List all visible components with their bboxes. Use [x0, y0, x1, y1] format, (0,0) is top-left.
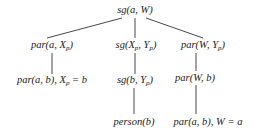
node-text-post: ): [150, 74, 154, 85]
edge-root-n1: [47, 18, 122, 38]
derivation-tree: [0, 0, 254, 135]
node-text-pre: par(a, b), X: [17, 74, 66, 85]
node-text-post: = b: [69, 74, 87, 85]
tree-node-n1a: par(a, b), Xp = b: [17, 75, 87, 87]
tree-node-n2a: sg(b, Yp): [117, 75, 153, 87]
tree-node-n2: sg(Xp, Yp): [116, 40, 157, 52]
tree-node-n3: par(W, Yp): [181, 40, 225, 52]
tree-node-root: sg(a, W): [117, 5, 153, 16]
tree-node-n1: par(a, Xp): [31, 40, 73, 52]
node-text-pre: par(W, Y: [181, 39, 218, 50]
node-text-pre: par(a, b), W = a: [174, 116, 243, 127]
node-text-post: ): [153, 39, 157, 50]
tree-node-n3a: par(W, b): [175, 73, 215, 84]
tree-node-n3b: par(a, b), W = a: [174, 117, 243, 128]
edge-root-n3: [146, 18, 203, 38]
node-text-post: ): [221, 39, 225, 50]
node-text-pre: sg(X: [116, 39, 135, 50]
node-text-pre: sg(a, W): [117, 4, 153, 15]
node-text-pre: person(b): [114, 116, 155, 127]
node-text-mid: , Y: [138, 39, 149, 50]
tree-node-n2b: person(b): [114, 117, 155, 128]
node-text-pre: par(W, b): [175, 72, 215, 83]
node-text-pre: par(a, X: [31, 39, 66, 50]
node-text-pre: sg(b, Y: [117, 74, 146, 85]
node-text-post: ): [70, 39, 74, 50]
